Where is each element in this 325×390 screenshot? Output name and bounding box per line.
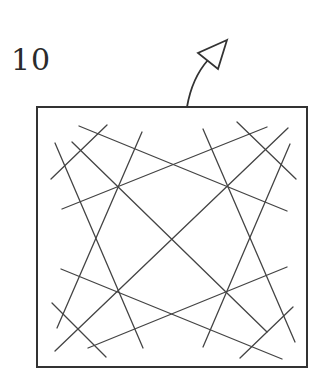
line-right-steep-a [203,129,295,342]
lattice-diagram [0,0,325,390]
line-right-steep-b [203,144,290,347]
line-lower-rising [88,267,287,348]
crossing-lines-group [51,122,296,359]
arrow-head-icon [198,40,227,69]
line-corner-bl [52,303,106,357]
line-diagonal-tl-br [72,142,267,332]
arrow-shaft [187,60,208,107]
line-upper-falling [79,126,287,211]
line-corner-br [240,307,293,358]
line-left-steep-b [55,143,143,348]
